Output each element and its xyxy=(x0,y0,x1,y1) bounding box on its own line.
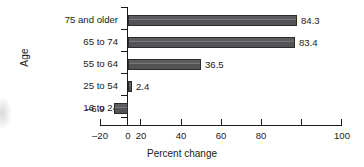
value-label-16-to-24: –6.9 xyxy=(86,103,105,114)
x-axis-tick-40 xyxy=(181,119,182,126)
bar-25-to-54 xyxy=(128,81,133,92)
value-label-65-to-74: 83.4 xyxy=(299,37,318,48)
x-axis-tick-100 xyxy=(341,119,342,126)
bar-16-to-24 xyxy=(114,103,128,114)
x-axis-tick-20 xyxy=(140,119,141,126)
x-axis-tick-90 xyxy=(301,119,302,126)
y-axis-tick-top xyxy=(121,7,128,8)
value-label-55-to-64: 36.5 xyxy=(205,59,224,70)
value-label-25-to-54: 2.4 xyxy=(136,81,149,92)
x-axis-title: Percent change xyxy=(0,148,364,159)
x-axis-tick--20 xyxy=(100,119,101,126)
x-axis-tick-60 xyxy=(221,119,222,126)
x-axis-tick-80 xyxy=(261,119,262,126)
x-tick-label-100: 100 xyxy=(322,130,362,141)
x-tick-label-80: 80 xyxy=(241,130,281,141)
x-tick-label-20: 20 xyxy=(121,130,161,141)
bar-55-to-64 xyxy=(128,59,202,70)
y-axis-tick-5 xyxy=(121,117,128,118)
y-axis-tick-4 xyxy=(121,95,128,96)
x-tick-label-40: 40 xyxy=(161,130,201,141)
bar-chart: Age 75 and older 65 to 74 55 to 64 25 to… xyxy=(0,0,364,167)
y-axis-tick-1 xyxy=(121,29,128,30)
x-tick-label-60: 60 xyxy=(201,130,241,141)
value-label-75-and-older: 84.3 xyxy=(301,15,320,26)
bar-65-to-74 xyxy=(128,37,296,48)
y-axis-tick-3 xyxy=(121,73,128,74)
plot-area: 84.3 83.4 36.5 2.4 –6.9 –20 0 20 40 60 8… xyxy=(0,0,364,167)
bar-75-and-older xyxy=(128,15,298,26)
y-axis-tick-2 xyxy=(121,51,128,52)
